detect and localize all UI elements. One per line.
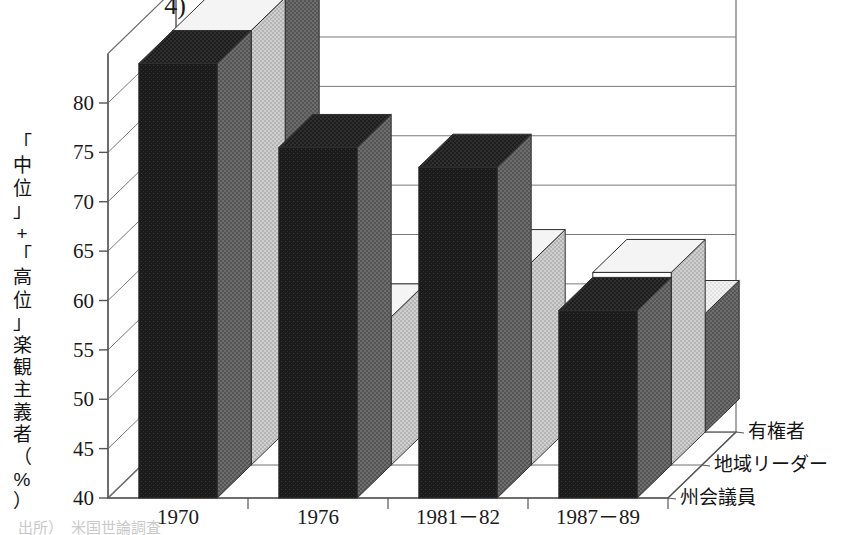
legend-leader-line: [702, 465, 710, 466]
clipped-footnote: 出所） 米国世論調査: [18, 519, 161, 535]
y-axis-title-char: 観: [13, 357, 32, 378]
y-axis-title-char: 主: [13, 379, 32, 400]
bar-front-face: [279, 147, 357, 498]
legend-leader-line: [736, 432, 744, 433]
y-axis-title-char: 」: [13, 312, 32, 333]
y-axis-title-char: 者: [13, 424, 32, 445]
bar-side-face: [217, 31, 251, 499]
bar-3d: [419, 134, 531, 498]
bar-side-face: [671, 239, 705, 465]
y-axis-title-char: 位: [13, 178, 32, 199]
y-axis-ticks: 404550556065707580: [73, 91, 108, 510]
y-axis-title-char: 」: [13, 200, 32, 221]
y-tick-label: 75: [73, 140, 94, 164]
y-axis-title-char: 位: [13, 290, 32, 311]
y-axis-title-char: （: [13, 447, 32, 468]
bar-side-face: [497, 134, 531, 498]
y-axis-title-char: 「: [13, 245, 32, 266]
y-tick-label: 70: [73, 190, 94, 214]
y-axis-title-char: %: [14, 469, 31, 490]
y-tick-label: 45: [73, 437, 94, 461]
legend-series-label: 州会議員: [680, 487, 756, 508]
y-axis-title-char: +: [16, 223, 27, 244]
bar-front-face: [559, 310, 637, 498]
y-axis-title-char: 中: [13, 155, 32, 176]
y-axis-title-char: ）: [13, 491, 32, 512]
bar-3d: [559, 277, 671, 498]
clipped-title: 4): [164, 0, 186, 20]
legend-series-label: 地域リーダー: [714, 454, 828, 475]
y-tick-label: 50: [73, 387, 94, 411]
bar-side-face: [357, 114, 391, 498]
bar-3d: [139, 31, 251, 499]
x-axis-category-label: 1987－89: [556, 505, 640, 529]
x-axis-category-label: 1976: [297, 505, 339, 529]
y-tick-label: 60: [73, 289, 94, 313]
y-tick-label: 40: [73, 486, 94, 510]
y-tick-label: 55: [73, 338, 94, 362]
x-axis-category-label: 1981－82: [416, 505, 500, 529]
y-tick-label: 80: [73, 91, 94, 115]
bar-3d: [279, 114, 391, 498]
bar-front-face: [419, 167, 497, 498]
y-axis-title-char: 高: [13, 267, 32, 288]
legend-series-label: 有権者: [748, 421, 805, 442]
y-axis-title-char: 楽: [13, 335, 32, 356]
legend-leader-line: [668, 498, 676, 499]
y-axis-title: 「中位」+「高位」楽観主義者（%）: [13, 133, 32, 512]
y-axis-title-char: 義: [13, 402, 32, 423]
x-axis-labels: 197019761981－821987－89: [157, 498, 668, 529]
chart-figure: 404550556065707580 「中位」+「高位」楽観主義者（%） 197…: [0, 0, 860, 535]
bar-front-face: [139, 64, 217, 499]
y-axis-title-char: 「: [13, 133, 32, 154]
y-tick-label: 65: [73, 239, 94, 263]
bar-chart-3d: 404550556065707580 「中位」+「高位」楽観主義者（%） 197…: [0, 0, 860, 535]
bar-side-face: [637, 277, 671, 498]
x-axis-category-label: 1970: [157, 505, 199, 529]
